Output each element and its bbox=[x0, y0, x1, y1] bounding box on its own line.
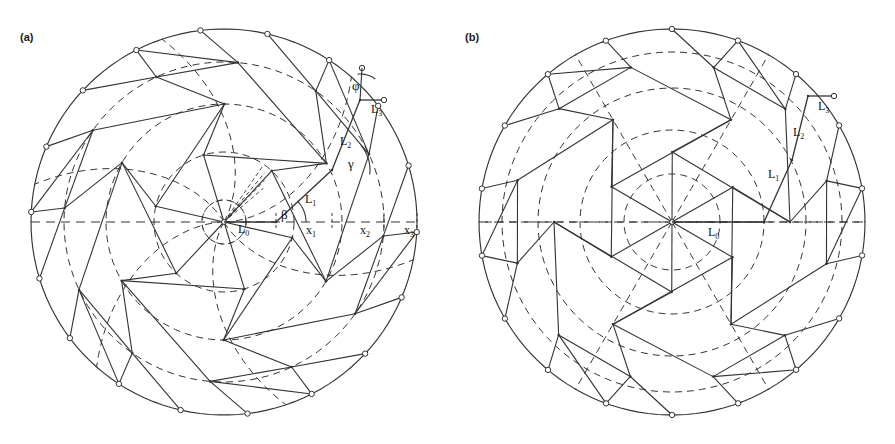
rim-node-14 bbox=[735, 401, 740, 406]
dimension-label: L0 bbox=[708, 225, 719, 241]
rim-node-5 bbox=[44, 144, 49, 149]
mesh-vertex bbox=[557, 334, 560, 337]
dashed-spoke-2 bbox=[576, 55, 673, 222]
rim-node-0 bbox=[326, 57, 331, 62]
ring-b-c-link-a-2 bbox=[559, 109, 613, 120]
mesh-vertex bbox=[325, 162, 328, 165]
mesh-vertex bbox=[325, 280, 328, 283]
mesh-vertex bbox=[516, 262, 519, 265]
node-L3-end bbox=[381, 97, 386, 102]
mesh-vertex bbox=[63, 207, 66, 210]
rim-node-3 bbox=[735, 38, 740, 43]
ring-c-rim-link-b-1 bbox=[136, 50, 238, 63]
dimension-label: γ bbox=[347, 156, 354, 171]
mesh-vertex bbox=[368, 153, 371, 156]
ring-c-rim-link-a-0 bbox=[827, 181, 862, 189]
mesh-vertex bbox=[671, 151, 674, 154]
rim-node-15 bbox=[793, 367, 798, 372]
ring-c-rim-link-a-6 bbox=[482, 256, 517, 264]
mesh-vertex bbox=[789, 221, 792, 224]
segment-phi-ref bbox=[360, 68, 362, 100]
mesh-vertex bbox=[629, 375, 632, 378]
rim-node-15 bbox=[414, 229, 419, 234]
ring-a-chord-1 bbox=[204, 155, 327, 163]
dimension-label: x3 bbox=[404, 223, 414, 239]
rim-node-3 bbox=[134, 47, 139, 52]
rim-node-13 bbox=[669, 412, 674, 417]
mesh-vertex bbox=[271, 170, 274, 173]
mesh-vertex bbox=[807, 95, 810, 98]
ring-c-chord-3 bbox=[559, 67, 631, 108]
mesh-vertex bbox=[202, 154, 205, 157]
ring-c-rim-link-b-9 bbox=[713, 370, 796, 377]
dashed-spoke-0 bbox=[224, 77, 351, 222]
rim-node-16 bbox=[836, 316, 841, 321]
dimension-label: φ bbox=[352, 78, 360, 93]
hub-fan-0 bbox=[224, 188, 263, 222]
ring-c-chord-9 bbox=[713, 335, 785, 376]
dimension-label: L1 bbox=[768, 167, 779, 183]
rim-node-16 bbox=[406, 163, 411, 168]
dimension-label: L2 bbox=[793, 125, 804, 141]
mesh-vertex bbox=[610, 256, 613, 259]
ring-c-rim-link-b-10 bbox=[785, 318, 839, 335]
rim-node-4 bbox=[80, 88, 85, 93]
mesh-vertex bbox=[731, 256, 734, 259]
panel-a-drawing: L0L1L2L3x1x2x3βγφ bbox=[0, 0, 447, 444]
node-L3-end bbox=[831, 93, 836, 98]
mesh-vertex bbox=[331, 169, 334, 172]
mesh-vertex bbox=[131, 352, 134, 355]
mesh-vertex bbox=[290, 366, 293, 369]
ring-c-rim-link-b-6 bbox=[505, 263, 517, 318]
rim-node-6 bbox=[545, 72, 550, 77]
rim-node-10 bbox=[178, 407, 183, 412]
ring-c-rim-link-a-0 bbox=[316, 60, 329, 91]
mesh-vertex bbox=[553, 221, 556, 224]
dimension-label: x2 bbox=[360, 223, 370, 239]
rim-node-2 bbox=[793, 71, 798, 76]
ring-b-c-link-a-4 bbox=[224, 340, 292, 367]
ring-c-rim-link-a-2 bbox=[136, 50, 156, 77]
hub-arm-0 bbox=[672, 187, 733, 222]
mesh-vertex bbox=[784, 334, 787, 337]
rim-node-8 bbox=[479, 186, 484, 191]
mesh-vertex bbox=[78, 288, 81, 291]
ring-c-rim-link-a-6 bbox=[119, 353, 132, 384]
mesh-vertex bbox=[763, 221, 766, 224]
panel-b: (b) L0L1L2L3 bbox=[448, 0, 895, 444]
hub-arm-3 bbox=[611, 222, 672, 257]
ring-c-rim-link-a-4 bbox=[548, 74, 559, 108]
mesh-vertex bbox=[825, 180, 828, 183]
ring-a-b-link-0 bbox=[272, 163, 327, 170]
rim-node-6 bbox=[29, 209, 34, 214]
rim-node-11 bbox=[545, 367, 550, 372]
ring-c-rim-link-a-1 bbox=[785, 74, 796, 109]
ring-b-c-link-b-3 bbox=[122, 281, 210, 382]
ring-a-b-link-2 bbox=[122, 163, 156, 207]
panel-b-drawing: L0L1L2L3 bbox=[448, 0, 895, 444]
mesh-vertex bbox=[237, 61, 240, 64]
mesh-vertex bbox=[120, 279, 123, 282]
ring-b-c-link-b-2 bbox=[79, 163, 122, 290]
angle-arc-phi bbox=[358, 74, 376, 79]
ring-b-c-link-b-5 bbox=[326, 154, 369, 281]
hub-arm-5 bbox=[672, 222, 732, 257]
rim-node-1 bbox=[265, 31, 270, 36]
mesh-vertex bbox=[175, 272, 178, 275]
ring-c-rim-link-b-0 bbox=[827, 125, 839, 180]
mesh-vertex bbox=[825, 262, 828, 265]
ring-b-c-link-a-1 bbox=[156, 77, 224, 104]
rim-node-9 bbox=[116, 381, 121, 386]
hub-arm-0 bbox=[224, 171, 272, 222]
rim-node-9 bbox=[479, 253, 484, 258]
rim-node-14 bbox=[399, 295, 404, 300]
ring-b-c-link-b-5 bbox=[731, 264, 826, 325]
ring-b-c-link-b-3 bbox=[554, 222, 559, 335]
ring-b-c-link-a-0 bbox=[790, 181, 827, 222]
mesh-vertex bbox=[354, 313, 357, 316]
mesh-vertex bbox=[670, 291, 673, 294]
mesh-vertex bbox=[610, 186, 613, 189]
mesh-vertex bbox=[92, 129, 95, 132]
mesh-vertex bbox=[243, 288, 246, 291]
ring-c-rim-link-b-0 bbox=[267, 34, 315, 91]
